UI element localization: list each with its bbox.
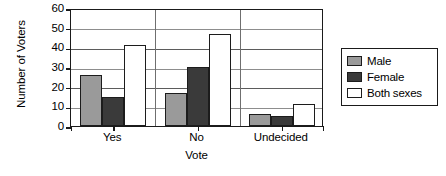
bar-female-no [187, 67, 209, 126]
y-axis-title: Number of Voters [15, 0, 27, 128]
plot-area [70, 9, 323, 127]
y-tick-mark [66, 108, 71, 109]
y-tick-mark [66, 49, 71, 50]
y-tick-mark [66, 29, 71, 30]
bar-male-yes [80, 75, 102, 126]
bar-both-sexes-undecided [293, 104, 315, 126]
gridline [71, 29, 322, 30]
x-axis-title: Vote [70, 149, 323, 161]
bar-both-sexes-yes [124, 45, 146, 126]
y-axis-tick-labels: 0102030405060 [38, 0, 64, 176]
y-tick-label: 0 [40, 121, 64, 132]
legend-item-both-sexes: Both sexes [347, 85, 432, 101]
y-tick-label: 40 [40, 42, 64, 53]
y-tick-mark [66, 68, 71, 69]
chart-legend: MaleFemaleBoth sexes [341, 48, 438, 106]
bar-female-undecided [271, 116, 293, 126]
y-tick-label: 20 [40, 82, 64, 93]
x-tick-label-no: No [154, 131, 238, 143]
bar-male-undecided [249, 114, 271, 126]
legend-label: Male [367, 55, 391, 67]
y-tick-label: 60 [40, 3, 64, 14]
y-tick-label: 50 [40, 23, 64, 34]
legend-label: Female [367, 71, 404, 83]
bar-chart: Number of Voters 0102030405060 YesNoUnde… [0, 0, 446, 176]
y-tick-mark [66, 9, 71, 10]
y-tick-mark [66, 88, 71, 89]
bar-both-sexes-no [209, 34, 231, 126]
legend-swatch-icon [347, 56, 362, 66]
group-separator [155, 10, 156, 126]
legend-swatch-icon [347, 72, 362, 82]
legend-item-female: Female [347, 69, 432, 85]
bar-female-yes [102, 97, 124, 127]
bar-male-no [165, 93, 187, 126]
x-tick-label-undecided: Undecided [239, 131, 323, 143]
legend-item-male: Male [347, 53, 432, 69]
y-tick-label: 30 [40, 62, 64, 73]
legend-label: Both sexes [367, 87, 422, 99]
x-tick-label-yes: Yes [70, 131, 154, 143]
group-separator [240, 10, 241, 126]
y-tick-label: 10 [40, 101, 64, 112]
legend-swatch-icon [347, 88, 362, 98]
gridline [71, 49, 322, 50]
